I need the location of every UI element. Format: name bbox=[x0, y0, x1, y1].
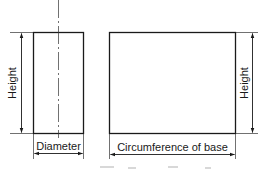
right-view: Height Circumference of base bbox=[110, 33, 259, 160]
cylinder-development-diagram: Height Diameter Height Circumference of … bbox=[0, 0, 264, 173]
left-view: Height Diameter bbox=[6, 0, 84, 159]
right-height-dimension: Height bbox=[236, 33, 258, 134]
development-rect bbox=[110, 33, 236, 134]
circumference-dimension: Circumference of base bbox=[110, 134, 236, 159]
circumference-label: Circumference of base bbox=[117, 141, 228, 153]
left-height-dimension: Height bbox=[6, 33, 33, 134]
diameter-label: Diameter bbox=[36, 140, 81, 152]
right-height-label: Height bbox=[238, 67, 250, 99]
left-height-label: Height bbox=[6, 67, 18, 99]
cropped-caption-remnant bbox=[100, 166, 211, 169]
